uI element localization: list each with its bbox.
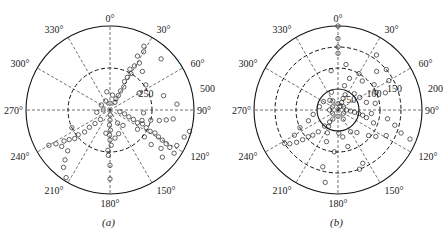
data-point: [306, 119, 310, 123]
angle-label-90: 90°: [425, 105, 439, 116]
data-point: [329, 69, 333, 73]
data-point: [369, 111, 373, 115]
ring-label-50: 50: [346, 94, 356, 105]
angle-label-120: 120°: [419, 151, 438, 162]
ring-label-500: 500: [200, 83, 215, 94]
data-point: [171, 117, 175, 121]
data-point: [62, 139, 66, 143]
data-point: [294, 140, 298, 144]
data-point: [364, 100, 368, 104]
angle-label-210: 210°: [273, 185, 292, 196]
data-point: [372, 83, 376, 87]
data-point: [159, 146, 163, 150]
data-point: [131, 117, 135, 121]
data-point: [316, 130, 320, 134]
data-point: [93, 121, 97, 125]
data-point: [311, 133, 315, 137]
angle-label-150: 150°: [157, 185, 176, 196]
data-point: [384, 133, 388, 137]
data-point: [361, 161, 365, 165]
data-point: [374, 53, 378, 57]
data-point: [153, 131, 157, 135]
data-point: [87, 125, 91, 129]
data-point: [113, 136, 117, 140]
ring-label-150: 150: [387, 83, 402, 94]
data-point: [107, 123, 111, 127]
data-point: [104, 99, 108, 103]
data-point: [157, 118, 161, 122]
data-point: [357, 167, 361, 171]
data-point: [135, 127, 139, 131]
polar-plot-a: 0°30°60°90°120°150°180°210°240°270°300°3…: [4, 13, 215, 209]
data-point: [324, 139, 328, 143]
data-point: [149, 142, 153, 146]
angle-label-270: 270°: [232, 105, 251, 116]
data-point: [116, 132, 120, 136]
data-point: [118, 89, 122, 93]
data-point: [98, 117, 102, 121]
angle-label-300: 300°: [11, 58, 30, 69]
data-point: [325, 131, 329, 135]
data-point: [366, 133, 370, 137]
data-point: [374, 134, 378, 138]
data-point: [341, 135, 345, 139]
caption-b: (b): [330, 216, 343, 228]
data-point: [360, 79, 364, 83]
spoke-300: [37, 68, 110, 110]
data-point: [311, 112, 315, 116]
data-point: [73, 136, 77, 140]
angle-label-30: 30°: [157, 24, 171, 35]
data-point: [108, 128, 112, 132]
data-point: [135, 121, 139, 125]
data-point: [144, 126, 148, 130]
data-point: [282, 141, 286, 145]
data-point: [156, 135, 160, 139]
figure: 0°30°60°90°120°150°180°210°240°270°300°3…: [0, 0, 447, 237]
data-point: [364, 115, 368, 119]
data-point: [54, 142, 58, 146]
data-point: [329, 90, 333, 94]
data-point: [344, 62, 348, 66]
data-point: [408, 137, 412, 141]
angle-label-240: 240°: [239, 151, 258, 162]
data-point: [182, 135, 186, 139]
data-point: [175, 102, 179, 106]
angle-label-330: 330°: [45, 24, 64, 35]
angle-label-180: 180°: [101, 198, 120, 209]
angle-label-60: 60°: [191, 58, 205, 69]
data-point: [337, 131, 341, 135]
data-point: [164, 118, 168, 122]
data-point: [110, 93, 114, 97]
angle-label-120: 120°: [191, 151, 210, 162]
angle-label-300: 300°: [239, 58, 258, 69]
data-point: [66, 149, 70, 153]
spoke-300: [265, 68, 338, 110]
data-point: [374, 69, 378, 73]
data-point: [371, 121, 375, 125]
angle-label-210: 210°: [45, 185, 64, 196]
polar-plot-b: 0°30°60°90°120°150°180°210°240°270°300°3…: [232, 13, 443, 209]
data-point: [399, 131, 403, 135]
data-point: [64, 175, 68, 179]
ring-label-100: 100: [367, 88, 382, 99]
data-point: [159, 57, 163, 61]
data-point: [321, 165, 325, 169]
data-point: [142, 44, 146, 48]
spoke-240: [265, 110, 338, 152]
data-point: [121, 123, 125, 127]
data-point: [300, 138, 304, 142]
data-point: [342, 84, 346, 88]
data-point: [105, 90, 109, 94]
data-point: [172, 151, 176, 155]
data-point: [122, 85, 126, 89]
data-point: [160, 155, 164, 159]
data-point: [385, 117, 389, 121]
data-point: [128, 67, 132, 71]
data-point: [317, 105, 321, 109]
data-point: [175, 143, 179, 147]
caption-a: (a): [102, 216, 115, 228]
data-point: [67, 137, 71, 141]
data-point: [61, 165, 65, 169]
angle-label-150: 150°: [385, 185, 404, 196]
data-point: [140, 69, 144, 73]
